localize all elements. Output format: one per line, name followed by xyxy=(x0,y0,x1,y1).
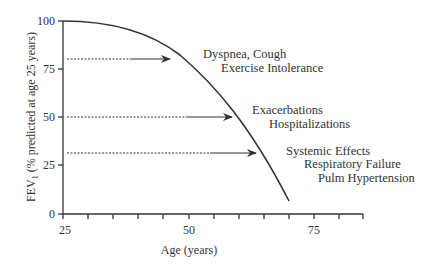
y-axis: 100 75 50 25 0 xyxy=(37,14,63,221)
x-axis: 25 50 75 xyxy=(59,214,363,237)
y-tick-25: 25 xyxy=(43,158,55,172)
x-tick-75: 75 xyxy=(308,223,320,237)
annotation-exacerbations: Exacerbations xyxy=(252,103,323,117)
y-tick-75: 75 xyxy=(43,62,55,76)
y-tick-100: 100 xyxy=(37,14,55,28)
annotation-exercise-intolerance: Exercise Intolerance xyxy=(221,61,324,75)
annotation-systemic-effects: Systemic Effects xyxy=(286,144,370,158)
x-axis-title: Age (years) xyxy=(161,243,217,257)
fev1-chart: 100 75 50 25 0 FEV1 (% predicted at age … xyxy=(0,0,436,271)
x-tick-25: 25 xyxy=(59,223,71,237)
y-tick-50: 50 xyxy=(43,110,55,124)
x-tick-50: 50 xyxy=(183,223,195,237)
y-axis-title: FEV1 (% predicted at age 25 years) xyxy=(24,32,40,202)
annotation-hospitalizations: Hospitalizations xyxy=(269,117,350,131)
annotation-respiratory-failure: Respiratory Failure xyxy=(304,157,401,171)
y-tick-0: 0 xyxy=(49,207,55,221)
annotation-pulm-hypertension: Pulm Hypertension xyxy=(318,171,416,185)
annotation-dyspnea-cough: Dyspnea, Cough xyxy=(203,47,287,61)
